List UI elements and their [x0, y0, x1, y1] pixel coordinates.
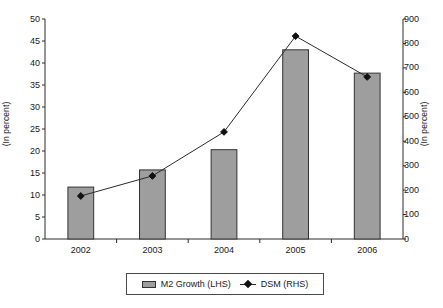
bar-2004 — [211, 150, 237, 239]
x-tick-label: 2002 — [45, 244, 117, 258]
legend-item-m2-growth: M2 Growth (LHS) — [142, 279, 231, 289]
plot-area — [0, 0, 443, 308]
legend-diamond-marker — [244, 280, 252, 288]
legend-item-label: DSM (RHS) — [261, 279, 309, 289]
legend-item-label: M2 Growth (LHS) — [161, 279, 231, 289]
x-tick-label: 2003 — [117, 244, 189, 258]
bar-swatch-icon — [142, 281, 156, 288]
bar-2003 — [140, 170, 166, 239]
x-tick-label: 2004 — [188, 244, 260, 258]
x-tick-label: 2006 — [331, 244, 403, 258]
bar-2006 — [354, 73, 380, 239]
bar-2005 — [283, 50, 309, 239]
chart-legend: M2 Growth (LHS) DSM (RHS) — [126, 273, 324, 295]
chart-figure: (In percent) (In percent) 05101520253035… — [0, 0, 443, 308]
x-axis-tick-labels: 20022003200420052006 — [45, 244, 403, 258]
line-diamond-icon — [240, 280, 256, 289]
x-tick-label: 2005 — [260, 244, 332, 258]
legend-item-dsm: DSM (RHS) — [240, 279, 309, 289]
